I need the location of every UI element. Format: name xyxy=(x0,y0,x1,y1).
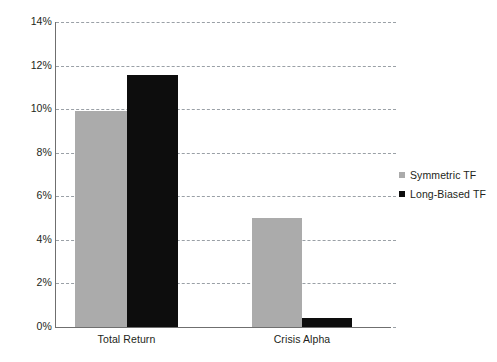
legend-label: Symmetric TF xyxy=(410,169,476,181)
y-tick: 10% xyxy=(0,103,52,114)
legend-item-long-biased-tf[interactable]: Long-Biased TF xyxy=(399,186,486,202)
bar-total-return-symmetric-tf xyxy=(75,111,127,327)
x-axis-line xyxy=(55,327,391,328)
legend-label: Long-Biased TF xyxy=(410,188,486,200)
plot-area xyxy=(56,22,390,327)
y-tick-label: 12% xyxy=(6,60,52,71)
x-tick-label-crisis-alpha: Crisis Alpha xyxy=(242,333,362,346)
y-tick: 14% xyxy=(0,16,52,27)
y-tick-label: 2% xyxy=(6,277,52,288)
y-tick-label: 14% xyxy=(6,16,52,27)
x-tick-label-total-return: Total Return xyxy=(67,333,187,346)
chart-legend: Symmetric TFLong-Biased TF xyxy=(399,167,486,205)
y-tick: 2% xyxy=(0,277,52,288)
y-tick-label: 0% xyxy=(6,321,52,332)
y-tick: 6% xyxy=(0,190,52,201)
y-tick: 0% xyxy=(0,321,52,332)
y-tick: 4% xyxy=(0,234,52,245)
bar-total-return-long-biased-tf xyxy=(127,75,178,327)
y-tick: 12% xyxy=(0,60,52,71)
legend-item-symmetric-tf[interactable]: Symmetric TF xyxy=(399,167,486,183)
bar-crisis-alpha-long-biased-tf xyxy=(302,318,352,327)
y-tick: 8% xyxy=(0,147,52,158)
y-tick-label: 6% xyxy=(6,190,52,201)
y-tick-label: 4% xyxy=(6,234,52,245)
legend-swatch-icon xyxy=(399,172,405,178)
bar-chart: 0%2%4%6%8%10%12%14% Total ReturnCrisis A… xyxy=(0,0,497,362)
bar-crisis-alpha-symmetric-tf xyxy=(252,218,302,327)
legend-swatch-icon xyxy=(399,191,405,197)
y-tick-label: 10% xyxy=(6,103,52,114)
y-tick-label: 8% xyxy=(6,147,52,158)
